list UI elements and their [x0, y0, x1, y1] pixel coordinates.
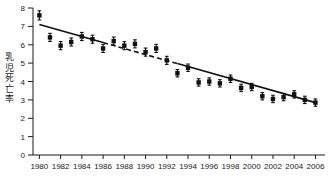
x-tick-label-2000: 2000: [243, 162, 261, 171]
data-point: [271, 97, 275, 101]
chart-plot-area: 0 1 2 3 4 5 6 7 8 1980198219841986198819…: [0, 0, 329, 176]
data-point: [313, 100, 317, 104]
data-point: [101, 46, 105, 50]
x-tick-label-2002: 2002: [264, 162, 282, 171]
x-tick-label-1984: 1984: [73, 162, 91, 171]
data-point: [69, 40, 73, 44]
x-tick-label-1998: 1998: [222, 162, 240, 171]
y-tick-label-2: 2: [21, 114, 26, 123]
data-point: [228, 77, 232, 81]
data-point: [48, 35, 52, 39]
data-point: [207, 79, 211, 83]
x-axis-tick-labels: 1980198219841986198819901992199419961998…: [30, 162, 324, 171]
y-tick-label-0: 0: [21, 151, 26, 160]
data-point: [37, 13, 41, 17]
x-tick-label-2006: 2006: [307, 162, 325, 171]
x-tick-label-1990: 1990: [137, 162, 155, 171]
data-point: [111, 39, 115, 43]
data-point: [292, 92, 296, 96]
y-tick-label-1: 1: [21, 133, 26, 142]
x-tick-label-1992: 1992: [158, 162, 176, 171]
data-point: [58, 43, 62, 47]
y-tick-label-8: 8: [21, 4, 26, 13]
data-point: [154, 46, 158, 50]
data-point: [80, 34, 84, 38]
y-tick-label-7: 7: [21, 22, 26, 31]
data-point: [250, 85, 254, 89]
infant-mortality-chart: 乳 児 死 亡 率 0 1 2 3 4 5 6 7 8 198: [0, 0, 329, 176]
data-point: [239, 86, 243, 90]
data-point: [260, 94, 264, 98]
data-point: [175, 71, 179, 75]
x-axis-ticks: [39, 155, 315, 159]
data-point: [133, 42, 137, 46]
data-point: [165, 58, 169, 62]
data-point: [90, 37, 94, 41]
data-point: [281, 95, 285, 99]
y-tick-label-6: 6: [21, 41, 26, 50]
x-tick-label-2004: 2004: [285, 162, 303, 171]
data-point: [196, 80, 200, 84]
data-point: [186, 66, 190, 70]
data-point: [218, 81, 222, 85]
y-tick-label-3: 3: [21, 96, 26, 105]
x-tick-label-1980: 1980: [30, 162, 48, 171]
y-axis-ticks: 0 1 2 3 4 5 6 7 8: [21, 4, 33, 160]
data-point: [303, 98, 307, 102]
y-tick-label-4: 4: [21, 78, 26, 87]
x-tick-label-1994: 1994: [179, 162, 197, 171]
data-point: [122, 43, 126, 47]
x-tick-label-1996: 1996: [200, 162, 218, 171]
x-tick-label-1988: 1988: [115, 162, 133, 171]
y-tick-label-5: 5: [21, 59, 26, 68]
x-tick-label-1986: 1986: [94, 162, 112, 171]
x-tick-label-1982: 1982: [52, 162, 70, 171]
data-point: [143, 50, 147, 54]
